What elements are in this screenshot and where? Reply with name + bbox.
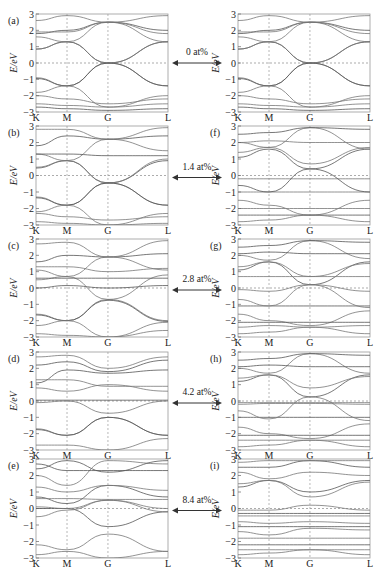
- y-tick-label: 1: [29, 154, 34, 165]
- y-tick-label: −1: [23, 520, 34, 531]
- panel-label: (e): [8, 460, 19, 472]
- y-axis-label: E/eV: [8, 389, 19, 411]
- y-tick-label: 0: [29, 58, 34, 69]
- y-tick-label: −2: [23, 90, 34, 101]
- y-tick-label: 3: [29, 121, 34, 132]
- panel-e: 3210−1−2−3KMGLE/eV(e): [8, 454, 171, 570]
- y-tick-label: −1: [23, 299, 34, 310]
- panel-label: (f): [210, 127, 220, 139]
- concentration-label: 0 at%: [186, 47, 208, 57]
- panel-h: 3210−1−2−3KMGLE/eV(h): [210, 347, 373, 462]
- kpoint-label: M: [265, 225, 274, 236]
- panel-b: 3210−1−2−3KMGLE/eV(b): [8, 121, 171, 237]
- panel-g: 3210−1−2−3KMGLE/eV(g): [210, 234, 373, 349]
- y-tick-label: 0: [231, 396, 236, 407]
- kpoint-label: M: [63, 337, 72, 348]
- kpoint-label: M: [265, 558, 274, 569]
- arrow-head-left: [172, 508, 178, 514]
- kpoint-label: L: [367, 337, 373, 348]
- y-axis-label: E/eV: [210, 389, 221, 411]
- y-tick-label: 2: [231, 25, 236, 36]
- y-tick-label: 1: [29, 266, 34, 277]
- y-tick-label: 2: [231, 137, 236, 148]
- panel-a: 3210−1−2−3KMGLE/eV(a): [8, 9, 171, 124]
- y-tick-label: −2: [225, 315, 236, 326]
- y-tick-label: 2: [29, 250, 34, 261]
- y-tick-label: −2: [225, 90, 236, 101]
- y-tick-label: 1: [231, 266, 236, 277]
- concentration-label: 8.4 at%: [182, 495, 211, 505]
- arrow-head-left: [172, 175, 178, 181]
- y-tick-label: 1: [231, 487, 236, 498]
- y-tick-label: 0: [231, 283, 236, 294]
- y-tick-label: −1: [225, 74, 236, 85]
- panel-d: 3210−1−2−3KMGLE/eV(d): [8, 347, 171, 462]
- kpoint-label: L: [367, 225, 373, 236]
- panel-label: (b): [8, 127, 20, 139]
- y-tick-label: −2: [225, 428, 236, 439]
- kpoint-label: L: [367, 112, 373, 123]
- kpoint-label: L: [367, 558, 373, 569]
- y-tick-label: 2: [29, 363, 34, 374]
- y-tick-label: 3: [29, 454, 34, 465]
- kpoint-label: G: [306, 112, 313, 123]
- y-tick-label: 1: [231, 154, 236, 165]
- y-tick-label: 1: [29, 379, 34, 390]
- panel-f: 3210−1−2−3KMGLE/eV(f): [210, 121, 373, 237]
- y-tick-label: 0: [231, 170, 236, 181]
- y-tick-label: −1: [225, 520, 236, 531]
- kpoint-label: M: [63, 112, 72, 123]
- panel-label: (i): [210, 460, 219, 472]
- kpoint-label: M: [63, 558, 72, 569]
- y-tick-label: −2: [23, 203, 34, 214]
- y-tick-label: −2: [225, 203, 236, 214]
- concentration-label: 2.8 at%: [182, 274, 211, 284]
- y-axis-label: E/eV: [210, 276, 221, 298]
- panel-c: 3210−1−2−3KMGLE/eV(c): [8, 234, 171, 349]
- y-tick-label: 0: [231, 503, 236, 514]
- kpoint-label: G: [104, 337, 111, 348]
- kpoint-label: M: [265, 337, 274, 348]
- y-axis-label: E/eV: [8, 164, 19, 186]
- y-axis-label: E/eV: [8, 276, 19, 298]
- kpoint-label: G: [306, 558, 313, 569]
- y-tick-label: 1: [231, 379, 236, 390]
- panel-label: (d): [8, 353, 20, 365]
- kpoint-label: L: [165, 337, 171, 348]
- kpoint-label: G: [104, 112, 111, 123]
- y-tick-label: 2: [231, 470, 236, 481]
- y-tick-label: 3: [231, 347, 236, 358]
- panel-label: (a): [8, 15, 19, 27]
- kpoint-label: M: [265, 112, 274, 123]
- kpoint-label: G: [306, 337, 313, 348]
- y-tick-label: −2: [23, 428, 34, 439]
- panel-a-right: 3210−1−2−3KMGLE/eV: [210, 9, 373, 124]
- y-tick-label: 0: [29, 283, 34, 294]
- y-tick-label: 2: [231, 250, 236, 261]
- kpoint-label: K: [234, 112, 242, 123]
- y-tick-label: −1: [225, 299, 236, 310]
- y-axis-label: E/eV: [8, 497, 19, 519]
- y-tick-label: 2: [231, 363, 236, 374]
- y-tick-label: 3: [29, 234, 34, 245]
- y-tick-label: 3: [231, 454, 236, 465]
- kpoint-label: L: [165, 112, 171, 123]
- panel-label: (c): [8, 240, 19, 252]
- concentration-label: 1.4 at%: [182, 162, 211, 172]
- y-tick-label: −1: [225, 187, 236, 198]
- y-tick-label: 0: [231, 58, 236, 69]
- y-tick-label: −1: [23, 74, 34, 85]
- y-tick-label: 2: [29, 137, 34, 148]
- y-tick-label: 3: [231, 9, 236, 20]
- y-tick-label: 3: [29, 9, 34, 20]
- y-tick-label: −2: [23, 536, 34, 547]
- y-tick-label: 3: [29, 347, 34, 358]
- y-axis-label: E/eV: [8, 51, 19, 73]
- arrow-head-left: [172, 60, 178, 66]
- y-tick-label: −1: [23, 412, 34, 423]
- panel-label: (g): [210, 240, 222, 252]
- kpoint-label: K: [234, 558, 242, 569]
- y-tick-label: 1: [29, 487, 34, 498]
- kpoint-label: G: [104, 225, 111, 236]
- y-tick-label: 0: [29, 170, 34, 181]
